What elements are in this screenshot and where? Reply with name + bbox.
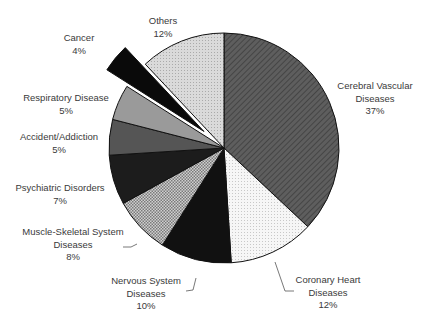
label-pct: 37%: [337, 105, 412, 118]
label-respiratory: Respiratory Disease 5%: [23, 92, 109, 117]
label-text: Accident/Addiction: [20, 131, 98, 144]
label-text: Respiratory Disease: [23, 92, 109, 105]
label-cancer: Cancer 4%: [64, 32, 95, 57]
label-pct: 10%: [111, 300, 181, 313]
label-text: Diseases: [296, 287, 361, 300]
label-text: Cancer: [64, 32, 95, 45]
label-text: Muscle-Skeletal System: [22, 226, 123, 239]
label-pct: 5%: [23, 105, 109, 118]
label-text: Psychiatric Disorders: [15, 182, 104, 195]
label-text: Diseases: [22, 239, 123, 252]
label-pct: 12%: [149, 28, 178, 41]
label-pct: 5%: [20, 144, 98, 157]
label-muscle: Muscle-Skeletal System Diseases 8%: [22, 226, 123, 264]
leader-nervous: [186, 278, 196, 291]
label-cerebral: Cerebral Vascular Diseases 37%: [337, 80, 412, 118]
leader-muscle: [123, 244, 137, 247]
label-nervous: Nervous System Diseases 10%: [111, 275, 181, 313]
pie-slices: [107, 33, 339, 263]
label-text: Cerebral Vascular: [337, 80, 412, 93]
label-text: Others: [149, 15, 178, 28]
label-others: Others 12%: [149, 15, 178, 40]
label-psychiatric: Psychiatric Disorders 7%: [15, 182, 104, 207]
label-text: Nervous System: [111, 275, 181, 288]
label-text: Coronary Heart: [296, 274, 361, 287]
label-text: Diseases: [337, 93, 412, 106]
label-coronary: Coronary Heart Diseases 12%: [296, 274, 361, 312]
label-pct: 8%: [22, 251, 123, 264]
label-accident: Accident/Addiction 5%: [20, 131, 98, 156]
label-pct: 12%: [296, 299, 361, 312]
label-text: Diseases: [111, 288, 181, 301]
label-pct: 7%: [15, 195, 104, 208]
label-pct: 4%: [64, 45, 95, 58]
leader-coronary: [275, 262, 294, 291]
